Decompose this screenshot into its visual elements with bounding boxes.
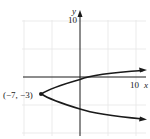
vertex-dot bbox=[39, 92, 43, 96]
vertex-label: (−7, −3) bbox=[3, 90, 33, 100]
x-axis-label: x bbox=[143, 80, 148, 90]
lower-arrow-icon bbox=[139, 117, 147, 122]
parabola-graph: y 10 10 x (−7, −3) bbox=[0, 0, 150, 139]
x-tick-label: 10 bbox=[130, 80, 140, 90]
y-tick-label: 10 bbox=[68, 15, 78, 25]
upper-arrow-icon bbox=[139, 68, 147, 73]
y-axis-arrow-icon bbox=[78, 10, 83, 17]
parabola-curve bbox=[42, 71, 144, 120]
